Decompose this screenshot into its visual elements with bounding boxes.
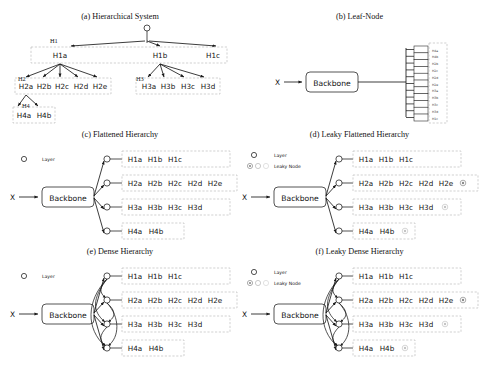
node-label: H3c (168, 320, 182, 329)
legend-leaky-label: Leaky Node (274, 281, 301, 286)
node-label: H4a (359, 344, 373, 353)
node-label: H2c (168, 179, 182, 188)
node-label: H3b (379, 203, 394, 212)
panel-e-dense-hierarchy: (e) Dense Hierarchy Layer X Backbone (0, 247, 240, 375)
node-h3c: H3c (181, 82, 195, 91)
legend-layer-node-icon (251, 269, 256, 274)
leaf-label: H3a (432, 89, 438, 93)
panel-b-backbone-label: Backbone (313, 79, 351, 88)
leaf-label: H2d (432, 76, 438, 80)
node-label: H1a (128, 272, 142, 281)
node-label: H3d (188, 320, 203, 329)
panel-d-caption: (d) Leaky Flattened Hierarchy (240, 130, 479, 139)
panel-c-graph: Layer X Backbone H1a H1b H1c H2a H2b (0, 142, 240, 247)
node-label: H2a (128, 179, 142, 188)
panel-e-caption: (e) Dense Hierarchy (0, 247, 240, 256)
node-label: H3b (148, 320, 163, 329)
panel-c-flattened-hierarchy: (c) Flattened Hierarchy Layer X Backbone… (0, 130, 240, 247)
panel-e-graph: Layer X Backbone H1a (0, 259, 240, 371)
node-label: H2e (439, 296, 454, 305)
panel-f-graph: Layer Leaky Node X Backbone (240, 259, 479, 371)
level-label-h3: H3 (136, 75, 144, 82)
node-h2c: H2c (55, 82, 69, 91)
node-label: H3b (148, 203, 163, 212)
leaky-node (442, 204, 448, 210)
panel-c-backbone-label: Backbone (49, 194, 87, 203)
leaf-label: H3c (432, 103, 438, 107)
legend-layer-label: Layer (42, 274, 55, 279)
leaf-label: H2c (432, 69, 438, 73)
leaky-node (402, 345, 408, 351)
panel-b-input-label: X (275, 78, 280, 87)
leaf-label: H4a (432, 49, 438, 53)
legend-layer-label: Layer (42, 157, 55, 162)
layer-node (104, 321, 110, 327)
node-label: H2a (359, 296, 373, 305)
legend-leaky-label: Leaky Node (274, 164, 301, 169)
layer-node (336, 180, 342, 186)
node-label: H3a (359, 320, 373, 329)
node-h1c: H1c (206, 51, 220, 60)
figure-root: (a) Hierarchical System H1 H2 H3 H4 H1a … (0, 0, 479, 375)
node-label: H3d (188, 203, 203, 212)
node-h1b: H1b (153, 51, 168, 60)
leaf-label: H4b (432, 55, 438, 59)
node-label: H3c (399, 203, 413, 212)
node-h3d: H3d (201, 82, 216, 91)
node-label: H4a (359, 227, 373, 236)
leaf-label: H1c (432, 117, 438, 121)
leaky-node (442, 321, 448, 327)
node-label: H1c (168, 272, 182, 281)
node-h3a: H3a (142, 82, 156, 91)
node-label: H2b (379, 296, 394, 305)
panel-d-backbone-label: Backbone (281, 194, 319, 203)
node-h2b: H2b (37, 82, 52, 91)
panel-f-input-label: X (242, 310, 247, 319)
node-label: H3c (399, 320, 413, 329)
leaf-label: H3b (432, 96, 438, 100)
node-label: H1a (359, 155, 373, 164)
panel-b-leaf-stack: H4a H4b H2b H2c H2d H2e H3a (406, 46, 438, 121)
node-h1a: H1a (53, 51, 67, 60)
layer-node (336, 156, 342, 162)
node-label: H1b (148, 155, 163, 164)
panel-a-graph: H1 H2 H3 H4 H1a H1b H1c H2a H (0, 22, 240, 134)
node-h2a: H2a (19, 82, 33, 91)
node-label: H1b (379, 155, 394, 164)
level-label-h2: H2 (18, 75, 26, 82)
node-label: H2a (359, 179, 373, 188)
leaky-node (460, 297, 466, 303)
node-label: H4b (149, 344, 164, 353)
level-label-h4: H4 (22, 102, 31, 109)
node-label: H2c (168, 296, 182, 305)
level-label-h1: H1 (50, 37, 58, 44)
node-h2e: H2e (93, 82, 108, 91)
layer-node (104, 156, 110, 162)
node-h3b: H3b (161, 82, 176, 91)
node-label: H2d (419, 179, 434, 188)
leaky-node (460, 180, 466, 186)
node-label: H3a (128, 203, 142, 212)
layer-node (336, 345, 342, 351)
layer-node (104, 204, 110, 210)
node-label: H2d (188, 296, 203, 305)
layer-node (104, 345, 110, 351)
leaf-label: H2e (432, 83, 438, 87)
node-label: H3b (379, 320, 394, 329)
panel-f-leaky-dense-hierarchy: (f) Leaky Dense Hierarchy Layer Leaky No… (240, 247, 479, 375)
legend-leaky-node-icon (247, 163, 268, 168)
node-label: H2b (148, 179, 163, 188)
legend-layer-label: Layer (274, 270, 287, 275)
node-label: H1a (128, 155, 142, 164)
panel-c-input-label: X (10, 193, 15, 202)
node-label: H1b (379, 272, 394, 281)
node-label: H2c (399, 179, 413, 188)
node-h4b: H4b (37, 111, 52, 120)
node-label: H3c (168, 203, 182, 212)
node-h2d: H2d (74, 82, 89, 91)
node-label: H2c (399, 296, 413, 305)
node-label: H2d (188, 179, 203, 188)
layer-node (104, 297, 110, 303)
node-label: H3a (128, 320, 142, 329)
node-h4a: H4a (17, 111, 31, 120)
